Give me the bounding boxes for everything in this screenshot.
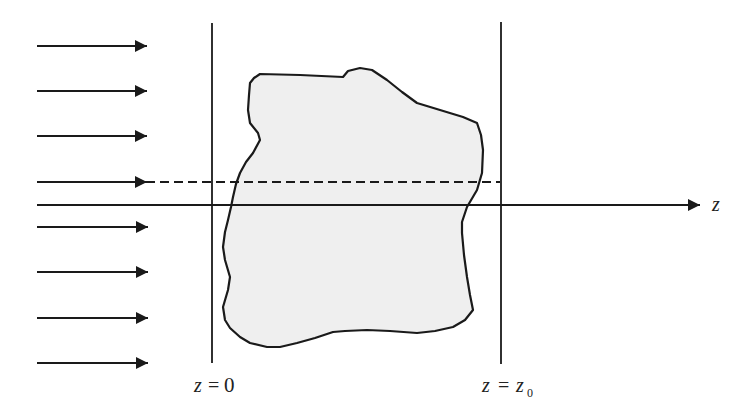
scattering-diagram: z z = 0 z = z 0 xyxy=(0,0,752,417)
plane-right-eq: = xyxy=(498,374,509,396)
plane-right-sub: 0 xyxy=(527,386,533,400)
plane-left-eq: = xyxy=(208,374,219,396)
plane-left-val: 0 xyxy=(224,373,235,397)
plane-left-label: z = 0 xyxy=(193,373,235,397)
plane-right-val: z xyxy=(515,374,524,396)
plane-right-label: z = z 0 xyxy=(481,374,533,400)
plane-left-var: z xyxy=(193,374,202,396)
plane-right-var: z xyxy=(481,374,490,396)
scattering-object xyxy=(223,68,483,347)
z-axis-label: z xyxy=(711,193,720,215)
